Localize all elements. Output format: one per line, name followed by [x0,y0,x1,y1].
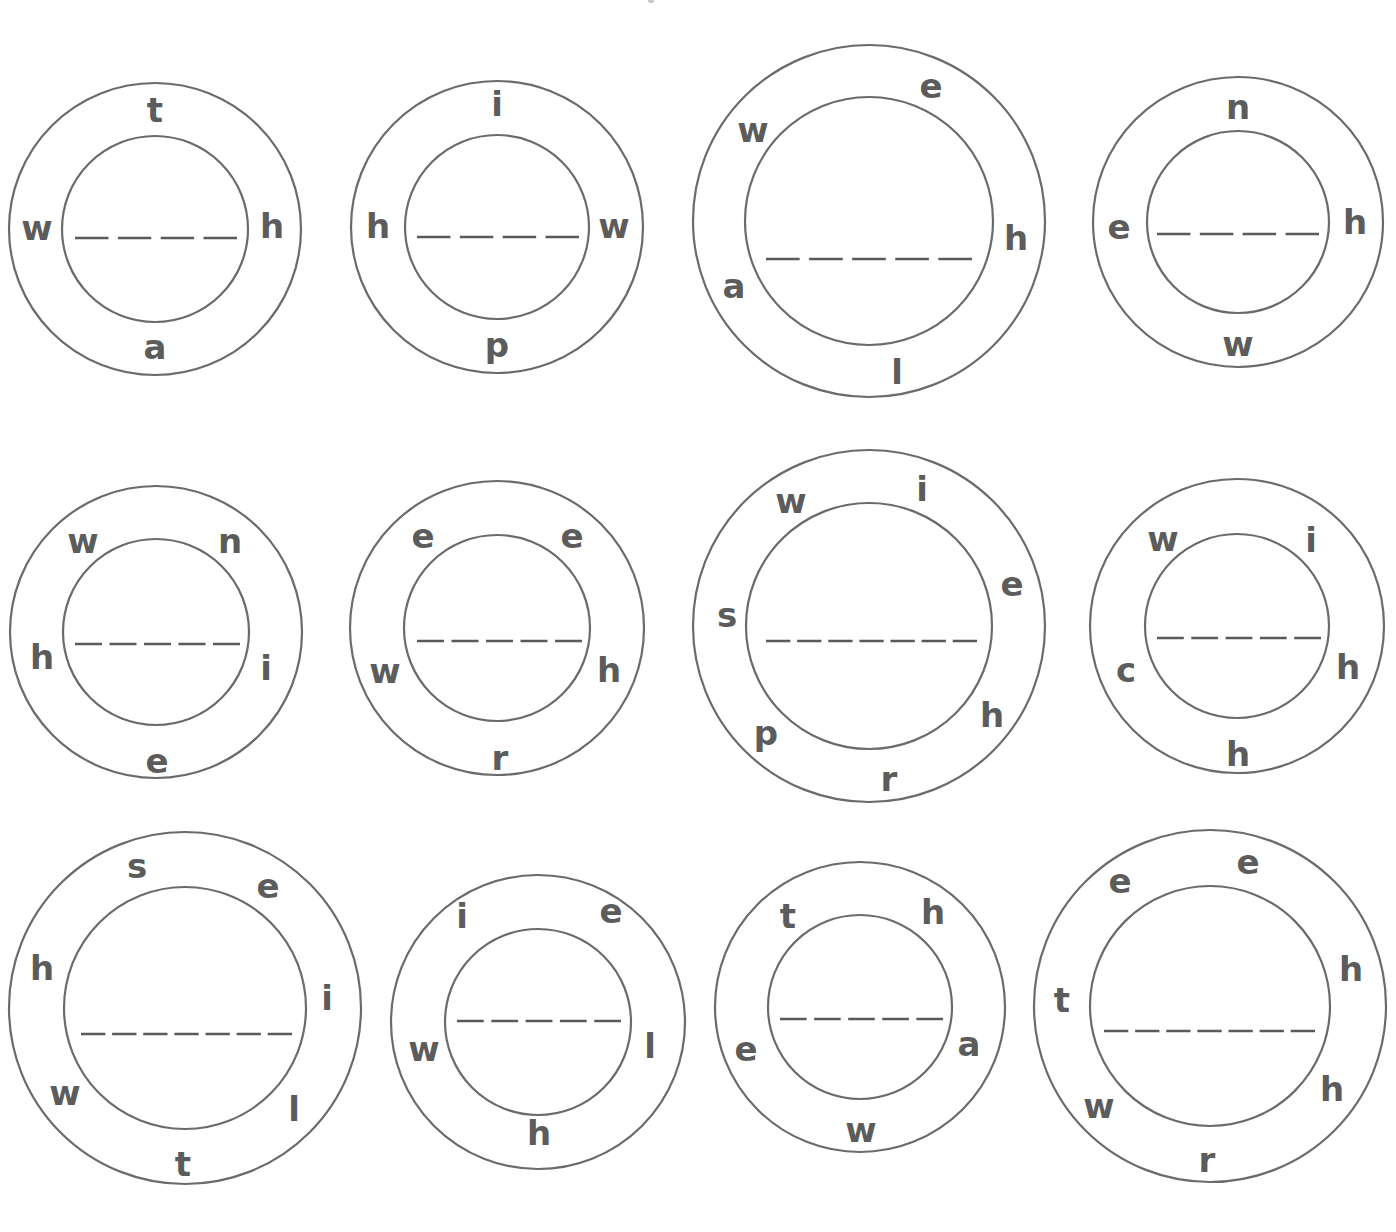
wheel-letter: h [1336,647,1360,687]
wheel-letter: t [1054,980,1070,1020]
wheel-letter: w [845,1110,876,1150]
wheel-letter: h [30,948,54,988]
wheel-letter: i [456,896,468,936]
wheel-letter: p [754,713,778,753]
wheel-letter: h [1226,734,1250,774]
wheel-letter: s [717,595,737,635]
wheel-letter: n [1226,87,1250,127]
wheel-letter: h [597,650,621,690]
wheel-letter: p [485,325,509,365]
wheel-letter: h [1343,202,1367,242]
wheel-letter: w [49,1073,80,1113]
wheel-letter: t [147,90,163,130]
wheel-letter: w [67,521,98,561]
letter-wheel-worksheet: thawiwphewhalnehwwnhieeewhrwisephrwichhs… [0,0,1396,1232]
wheel-letter: i [321,978,333,1018]
wheel-letter: a [144,327,167,367]
wheel-letter: e [599,891,622,931]
wheel-letter: e [1236,842,1259,882]
page-background [0,0,1396,1232]
wheel-letter: l [891,352,903,392]
wheel-letter: r [881,759,898,799]
wheel-letter: a [723,266,746,306]
wheel-letter: w [598,206,629,246]
wheel-letter: e [1108,861,1131,901]
wheel-letter: i [916,469,928,509]
wheel-letter: c [1116,650,1136,690]
wheel-letter: w [1083,1086,1114,1126]
wheel-letter: h [1320,1069,1344,1109]
wheel-letter: w [737,110,768,150]
wheel-letter: e [560,516,583,556]
wheel-letter: i [260,648,272,688]
wheel-letter: r [1199,1140,1216,1180]
wheel-letter: h [921,892,945,932]
wheel-letter: w [408,1029,439,1069]
wheel-letter: r [492,738,509,778]
wheel-letter: t [780,896,796,936]
wheel-letter: a [958,1024,981,1064]
wheel-letter: t [175,1144,191,1184]
wheel-letter: h [1339,949,1363,989]
wheel-letter: h [366,206,390,246]
wheel-letter: w [1222,324,1253,364]
wheel-letter: e [256,866,279,906]
wheel-letter: h [1004,218,1028,258]
wheel-letter: e [1107,207,1130,247]
wheel-letter: e [734,1029,757,1069]
wheel-letter: w [21,208,52,248]
wheel-letter: h [30,637,54,677]
wheel-letter: e [145,741,168,781]
wheel-letter: h [260,206,284,246]
wheel-letter: w [775,481,806,521]
wheel-letter: l [644,1026,656,1066]
wheel-letter: s [127,846,147,886]
wheel-letter: n [218,521,242,561]
wheel-letter: w [369,651,400,691]
wheel-letter: h [980,695,1004,735]
wheel-letter: i [1305,520,1317,560]
wheel-letter: e [1000,564,1023,604]
wheel-letter: e [919,66,942,106]
wheel-letter: e [411,516,434,556]
wheel-letter: w [1147,519,1178,559]
wheel-letter: h [527,1113,551,1153]
wheel-letter: i [491,84,503,124]
wheel-letter: l [288,1089,300,1129]
